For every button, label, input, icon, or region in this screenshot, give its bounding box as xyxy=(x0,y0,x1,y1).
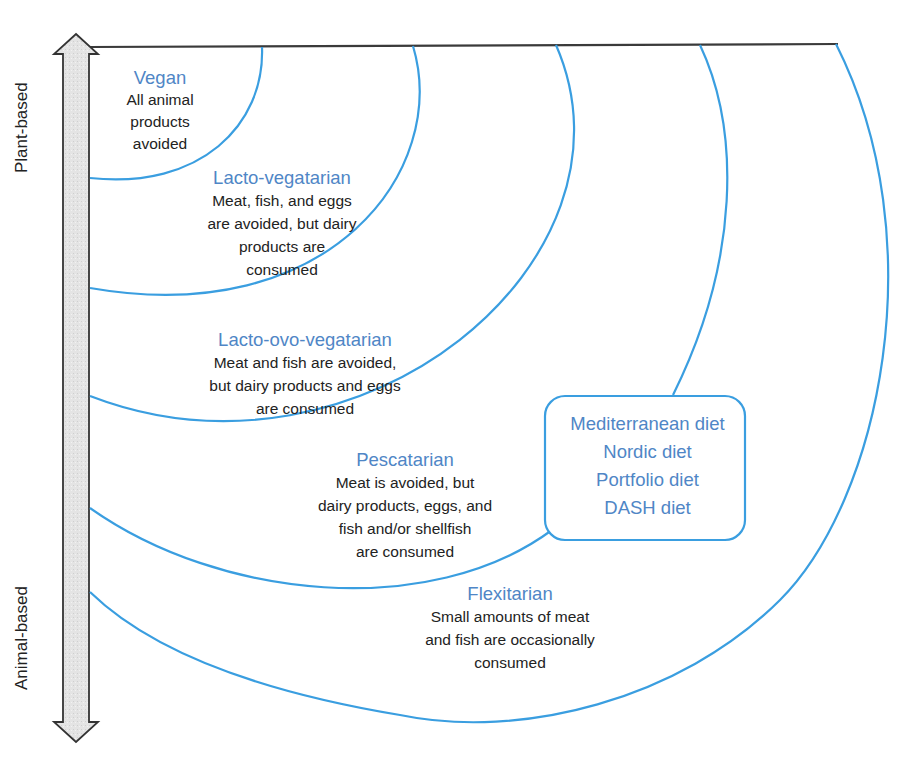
top-baseline xyxy=(88,44,838,47)
diet-label-lacto-vegetarian: Lacto-vegatarian Meat, fish, and eggs ar… xyxy=(182,166,382,281)
pattern-item-mediterranean: Mediterranean diet xyxy=(550,410,745,438)
diet-description: Meat is avoided, but dairy products, egg… xyxy=(290,471,520,563)
diet-description: Small amounts of meat and fish are occas… xyxy=(400,605,620,674)
axis-label-plant-based: Plant-based xyxy=(12,83,32,173)
dietary-patterns-list: Mediterranean diet Nordic diet Portfolio… xyxy=(550,410,745,522)
diet-label-lacto-ovo-vegetarian: Lacto-ovo-vegatarian Meat and fish are a… xyxy=(180,328,430,420)
pattern-item-dash: DASH diet xyxy=(550,494,745,522)
diet-description: Meat, fish, and eggs are avoided, but da… xyxy=(182,189,382,281)
arc-pescatarian-upper xyxy=(673,45,727,395)
diet-title: Pescatarian xyxy=(290,448,520,471)
pattern-item-nordic: Nordic diet xyxy=(550,438,745,466)
diet-title: Lacto-ovo-vegatarian xyxy=(180,328,430,351)
diet-label-vegan: Vegan All animal products avoided xyxy=(100,66,220,155)
plant-animal-arrow-icon xyxy=(54,34,98,742)
diet-spectrum-diagram: Plant-based Animal-based Vegan All anima… xyxy=(0,0,901,759)
diet-title: Lacto-vegatarian xyxy=(182,166,382,189)
diet-title: Vegan xyxy=(100,66,220,89)
pattern-item-portfolio: Portfolio diet xyxy=(550,466,745,494)
axis-label-animal-based: Animal-based xyxy=(12,586,32,690)
diet-label-flexitarian: Flexitarian Small amounts of meat and fi… xyxy=(400,582,620,674)
diet-label-pescatarian: Pescatarian Meat is avoided, but dairy p… xyxy=(290,448,520,563)
diet-description: Meat and fish are avoided, but dairy pro… xyxy=(180,351,430,420)
diet-title: Flexitarian xyxy=(400,582,620,605)
diet-description: All animal products avoided xyxy=(100,89,220,155)
